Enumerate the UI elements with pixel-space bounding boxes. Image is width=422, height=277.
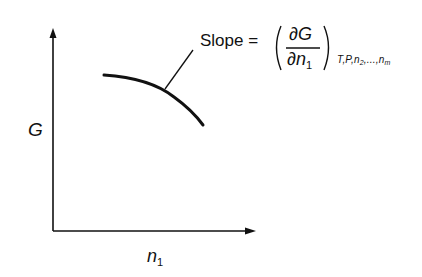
fraction-denominator: ∂n1 (287, 49, 312, 71)
slope-leader-line (165, 50, 193, 89)
denominator-subscript: 1 (306, 59, 312, 71)
denominator-var: n (296, 49, 306, 69)
denominator-partial: ∂ (287, 49, 296, 69)
x-axis-arrow-icon (245, 228, 256, 235)
held-constant-subscript: T,P,n2,...,nm (337, 54, 390, 66)
slope-label: Slope = (200, 31, 258, 51)
g-curve (104, 75, 203, 125)
y-axis-label: G (28, 119, 43, 141)
x-axis-label-subscript: 1 (157, 256, 163, 268)
held-constant-main: T,P,n (337, 54, 360, 65)
partial-derivative-fraction: ∂G ∂n1 (276, 24, 336, 74)
numerator-var: G (298, 24, 312, 44)
x-axis-label: n1 (147, 246, 163, 268)
x-axis-label-var: n (147, 246, 157, 266)
y-axis-arrow-icon (50, 28, 57, 38)
numerator-partial: ∂ (289, 24, 298, 44)
fraction-numerator: ∂G (289, 24, 312, 45)
held-constant-subm: m (384, 59, 390, 66)
held-constant-ellipsis: ,...,n (364, 54, 385, 65)
